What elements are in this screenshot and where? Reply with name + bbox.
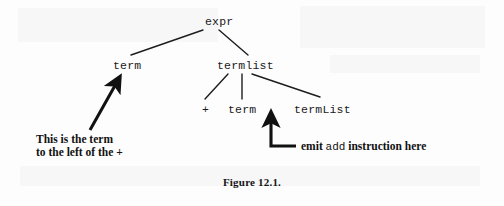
right-callout-instruction-name: add (326, 141, 346, 153)
tree-node-term-left: term (113, 59, 141, 72)
figure-caption: Figure 12.1. (0, 176, 504, 188)
right-callout-prefix: emit (301, 140, 323, 152)
tree-node-term-right: term (228, 103, 256, 116)
left-callout-line-1: This is the term (36, 133, 123, 146)
scan-ghost-artifact (330, 55, 480, 73)
tree-node-expr: expr (205, 15, 233, 28)
left-callout-line-2: to the left of the + (36, 146, 123, 159)
edge-termlist-plus (205, 74, 228, 99)
edge-expr-termlist (219, 30, 248, 55)
left-callout-arrow (90, 82, 117, 130)
figure-12-1: expr term termlist + term termList This … (0, 0, 504, 206)
edge-termlist-termlist2 (252, 74, 320, 97)
scan-ghost-artifact (300, 6, 485, 48)
tree-node-plus: + (202, 103, 209, 116)
tree-node-termlist: termlist (217, 59, 274, 72)
right-callout-text: emit add instruction here (301, 140, 426, 154)
tree-node-termlist-tail: termList (294, 103, 351, 116)
scan-ghost-artifact (18, 8, 218, 42)
right-callout-suffix: instruction here (348, 140, 426, 152)
edge-expr-term (131, 30, 203, 55)
left-callout-text: This is the term to the left of the + (36, 133, 123, 158)
right-callout-arrow (271, 118, 296, 146)
